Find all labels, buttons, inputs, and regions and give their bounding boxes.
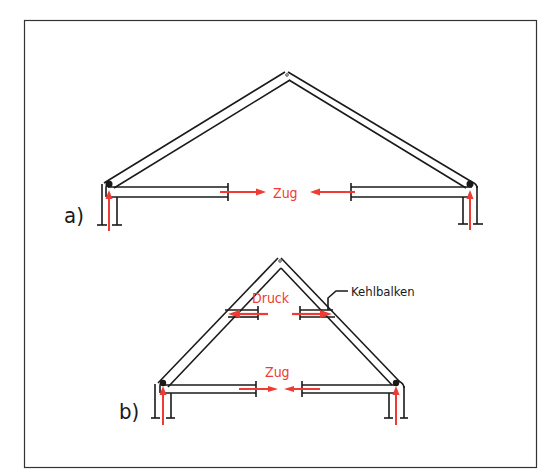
diagram-a	[97, 72, 483, 225]
truss-diagram: a) Zug	[0, 0, 558, 474]
diagram-b-compression-label: Druck	[252, 290, 290, 306]
diagram-b	[151, 258, 408, 418]
diagram-a-label: a)	[64, 203, 84, 228]
diagram-b-tension-label: Zug	[265, 364, 290, 380]
diagram-b-label: b)	[119, 399, 139, 424]
collar-beam-label: Kehlbalken	[351, 284, 415, 299]
diagram-a-tension-label: Zug	[273, 185, 298, 201]
frame-border	[25, 21, 537, 468]
